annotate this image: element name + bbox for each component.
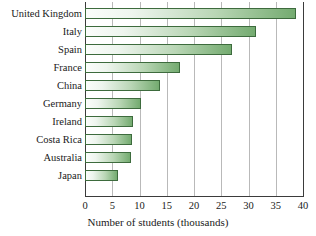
bar-germany (85, 98, 141, 109)
bar-france (85, 62, 180, 73)
bar-row (85, 116, 133, 127)
x-tick-label-35: 35 (261, 199, 291, 212)
x-tick-label-25: 25 (206, 199, 236, 212)
bar-row (85, 80, 160, 91)
bar-row (85, 98, 141, 109)
x-tick-label-15: 15 (152, 199, 182, 212)
bar-ireland (85, 116, 133, 127)
bar-spain (85, 44, 232, 55)
bar-costa-rica (85, 134, 132, 145)
category-label-japan: Japan (2, 170, 82, 181)
bar-united-kingdom (85, 8, 296, 19)
category-label-italy: Italy (2, 26, 82, 37)
category-label-china: China (2, 80, 82, 91)
category-axis-labels: United KingdomItalySpainFranceChinaGerma… (0, 2, 82, 196)
category-label-australia: Australia (2, 152, 82, 163)
gridline-35 (276, 2, 277, 196)
x-tick-label-10: 10 (125, 199, 155, 212)
x-axis-line (85, 196, 304, 197)
plot-area (85, 2, 303, 196)
bar-china (85, 80, 160, 91)
bar-australia (85, 152, 131, 163)
x-tick-label-20: 20 (179, 199, 209, 212)
x-tick-label-5: 5 (97, 199, 127, 212)
bar-japan (85, 170, 118, 181)
bar-row (85, 170, 118, 181)
bar-italy (85, 26, 256, 37)
category-label-france: France (2, 62, 82, 73)
category-label-ireland: Ireland (2, 116, 82, 127)
category-label-germany: Germany (2, 98, 82, 109)
bar-row (85, 134, 132, 145)
category-label-costa-rica: Costa Rica (2, 134, 82, 145)
x-tick-label-30: 30 (234, 199, 264, 212)
bar-row (85, 26, 256, 37)
x-axis-title: Number of students (thousands) (0, 216, 316, 228)
bar-row (85, 62, 180, 73)
gridline-40 (303, 2, 304, 196)
bar-row (85, 44, 232, 55)
x-tick-label-0: 0 (70, 199, 100, 212)
bar-row (85, 152, 131, 163)
bar-chart: United KingdomItalySpainFranceChinaGerma… (0, 0, 316, 236)
x-tick-label-40: 40 (288, 199, 316, 212)
category-label-united-kingdom: United Kingdom (2, 8, 82, 19)
category-label-spain: Spain (2, 44, 82, 55)
bar-row (85, 8, 296, 19)
